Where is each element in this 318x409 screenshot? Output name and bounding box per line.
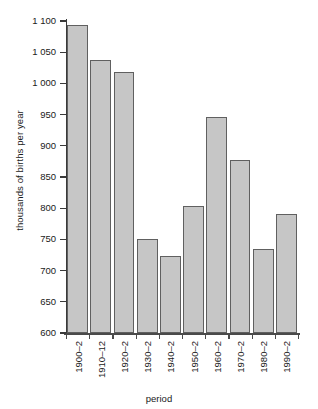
x-tick-mark [112,334,113,339]
x-tick-label-text: 1930–2 [142,341,153,373]
x-tick-label-text: 1910–12 [95,341,106,378]
x-tick-label-text: 1920–2 [119,341,130,373]
x-tick-label-text: 1980–2 [258,341,269,373]
y-tick-label: 750 [0,234,56,244]
x-tick-label: 1910–12 [94,341,108,397]
y-tick-label: 1 100 [0,16,56,26]
y-tick-label: 1 000 [0,78,56,88]
y-tick-label: 850 [0,172,56,182]
x-tick-label: 1940–2 [163,341,177,397]
x-tick-label: 1920–2 [117,341,131,397]
plot-area [66,21,298,333]
x-tick-label-text: 1960–2 [211,341,222,373]
x-tick-mark [182,334,183,339]
bar [114,72,135,333]
x-tick-label-text: 1940–2 [165,341,176,373]
x-tick-mark [275,334,276,339]
x-tick-label: 1930–2 [140,341,154,397]
bar [230,160,251,333]
x-tick-label: 1970–2 [233,341,247,397]
y-tick-label: 1 050 [0,47,56,57]
x-tick-label: 1980–2 [256,341,270,397]
bar [160,256,181,333]
x-tick-mark [298,334,299,339]
y-tick-label: 950 [0,110,56,120]
x-axis-title-text: period [146,393,172,404]
x-tick-mark [66,334,67,339]
y-tick-label: 600 [0,328,56,338]
x-tick-label: 1990–2 [279,341,293,397]
x-axis-title: period [0,393,318,404]
x-tick-label-text: 1950–2 [188,341,199,373]
x-tick-mark [89,334,90,339]
y-tick-label: 800 [0,203,56,213]
y-tick-label: 650 [0,297,56,307]
bar [183,206,204,333]
bar [67,25,88,333]
x-tick-mark [205,334,206,339]
x-tick-mark [159,334,160,339]
bar [206,117,227,333]
x-tick-mark [136,334,137,339]
bar [90,60,111,333]
bar [253,249,274,333]
y-tick-label: 900 [0,141,56,151]
x-tick-label: 1960–2 [210,341,224,397]
x-tick-label-text: 1970–2 [235,341,246,373]
bar [276,214,297,333]
y-tick-label: 700 [0,266,56,276]
x-tick-label-text: 1990–2 [281,341,292,373]
x-tick-label: 1950–2 [187,341,201,397]
x-tick-mark [228,334,229,339]
x-tick-label-text: 1900–2 [72,341,83,373]
x-tick-label: 1900–2 [71,341,85,397]
chart-figure: thousands of births per year 60065070075… [0,0,318,409]
x-tick-mark [252,334,253,339]
bar [137,239,158,333]
